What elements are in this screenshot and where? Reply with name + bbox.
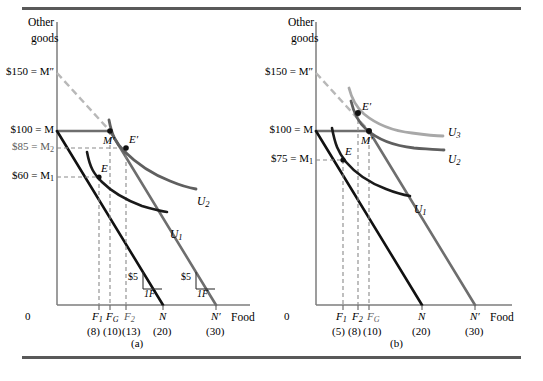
panel-a: Other goods $150 = M″ $100 = M $85 = M2 … — [0, 0, 272, 356]
point-E-prime-b — [355, 110, 361, 116]
origin-label-b: 0 — [284, 311, 290, 323]
panel-caption-b: (b) — [390, 338, 403, 350]
x-paren-N-prime-b: (30) — [465, 326, 483, 338]
y-axis-title-line2-b: goods — [291, 32, 318, 44]
x-paren-N-prime-a: (30) — [206, 326, 224, 338]
x-tick-N-a: N — [159, 311, 166, 323]
x-tick-FG-a: FG — [106, 311, 119, 325]
x-tick-N-b: N — [418, 311, 425, 323]
slope-run-black-a: 1F — [144, 289, 155, 300]
slope-rise-black-a: $5 — [128, 272, 138, 283]
x-paren-N-a: (20) — [153, 326, 171, 338]
slope-run-gray-a: 1F — [197, 289, 208, 300]
x-paren-F2-b: (8) — [348, 326, 361, 338]
panel-b: Other goods $150 = M″ $100 = M $75 = M1 … — [268, 0, 540, 356]
curve-U2-a — [109, 120, 196, 189]
slope-rise-gray-a: $5 — [181, 272, 191, 283]
y-label-M-double-prime-b: $150 = M″ — [259, 66, 313, 78]
x-tick-F1-a: F1 — [92, 311, 103, 325]
x-tick-FG-b: FG — [367, 311, 380, 325]
x-axis-title-a: Food — [231, 311, 255, 323]
point-E-b — [340, 157, 345, 162]
x-paren-F1-a: (8) — [87, 326, 100, 338]
x-paren-F1-b: (5) — [332, 326, 345, 338]
curve-label-U1-a: U1 — [170, 228, 183, 242]
point-label-E-prime-a: E′ — [129, 134, 138, 146]
x-tick-F2-a: F2 — [124, 311, 135, 325]
x-tick-F1-b: F1 — [336, 311, 347, 325]
point-label-E-b: E — [345, 146, 352, 158]
panel-caption-a: (a) — [131, 338, 143, 350]
point-label-M-prime-b: M′ — [361, 135, 373, 147]
x-tick-F2-b: F2 — [352, 311, 363, 325]
point-E-a — [96, 174, 101, 179]
figure-bottom-rule — [22, 356, 521, 359]
axes-b — [316, 22, 512, 305]
point-M-prime-a — [107, 128, 113, 134]
panel-b-graphic — [268, 0, 540, 356]
x-tick-N-prime-b: N′ — [470, 311, 480, 323]
x-paren-FG-b: (10) — [363, 326, 381, 338]
x-tick-N-prime-a: N′ — [211, 311, 221, 323]
point-label-E-a: E — [101, 163, 108, 175]
figure-root: Other goods $150 = M″ $100 = M $85 = M2 … — [0, 0, 543, 381]
point-label-E-prime-b: E′ — [362, 101, 371, 113]
curve-label-U1-b: U1 — [414, 203, 427, 217]
curve-label-U2-a: U2 — [197, 195, 210, 209]
curve-label-U3-b: U3 — [448, 126, 461, 140]
x-axis-title-b: Food — [490, 311, 514, 323]
y-label-M-b: $100 = M — [259, 124, 313, 136]
y-label-M1-b: $75 = M1 — [259, 153, 313, 167]
curve-label-U2-b: U2 — [448, 153, 461, 167]
axes-a — [57, 22, 250, 305]
y-label-M-double-prime-a: $150 = M″ — [0, 66, 54, 78]
y-label-M-a: $100 = M — [0, 124, 54, 136]
y-axis-title-line2: goods — [31, 32, 58, 44]
y-label-M2-a: $85 = M2 — [0, 141, 54, 155]
point-E-prime-a — [123, 145, 129, 151]
x-paren-N-b: (20) — [412, 326, 430, 338]
y-label-M1-a: $60 = M1 — [0, 170, 54, 184]
guide-lines-a — [57, 131, 126, 305]
point-label-M-prime-a: M′ — [103, 135, 115, 147]
origin-label-a: 0 — [25, 311, 31, 323]
cash-equivalent-line-a — [57, 73, 110, 131]
y-axis-title-line1: Other — [28, 16, 54, 28]
x-paren-FG-a: (10) — [103, 326, 121, 338]
y-axis-title-line1-b: Other — [288, 16, 314, 28]
